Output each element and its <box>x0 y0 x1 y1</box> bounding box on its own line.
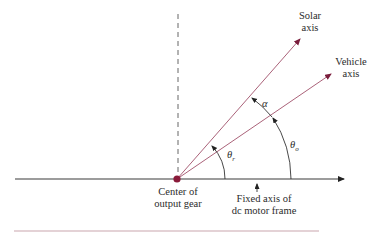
vehicle-axis-label: Vehicle axis <box>331 56 371 80</box>
fixed-axis-label-line1: Fixed axis of <box>226 193 302 205</box>
center-label: Center of output gear <box>146 186 210 210</box>
center-label-line2: output gear <box>146 198 210 210</box>
theta-o-arc <box>273 118 291 179</box>
fixed-axis-label: Fixed axis of dc motor frame <box>226 193 302 217</box>
fixed-axis-label-line2: dc motor frame <box>226 205 302 217</box>
alpha-symbol: α <box>262 98 268 109</box>
solar-axis-label-line2: axis <box>293 22 327 34</box>
vehicle-axis-label-line2: axis <box>331 68 371 80</box>
solar-axis-ray <box>177 39 300 179</box>
center-dot <box>173 175 180 182</box>
diagram-canvas: Solar axis Vehicle axis Center of output… <box>0 0 380 235</box>
solar-axis-label-line1: Solar <box>293 10 327 22</box>
theta-o-symbol: θo <box>290 139 299 153</box>
vehicle-axis-label-line1: Vehicle <box>331 56 371 68</box>
solar-axis-label: Solar axis <box>293 10 327 34</box>
vehicle-axis-ray <box>177 74 331 179</box>
center-label-line1: Center of <box>146 186 210 198</box>
theta-r-symbol: θr <box>227 149 235 163</box>
